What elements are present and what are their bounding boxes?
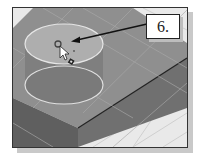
step-callout: 6. xyxy=(146,14,180,39)
sketch-circle-bottom[interactable] xyxy=(25,66,103,104)
callout-label: 6. xyxy=(157,18,169,36)
snap-point xyxy=(73,50,75,52)
